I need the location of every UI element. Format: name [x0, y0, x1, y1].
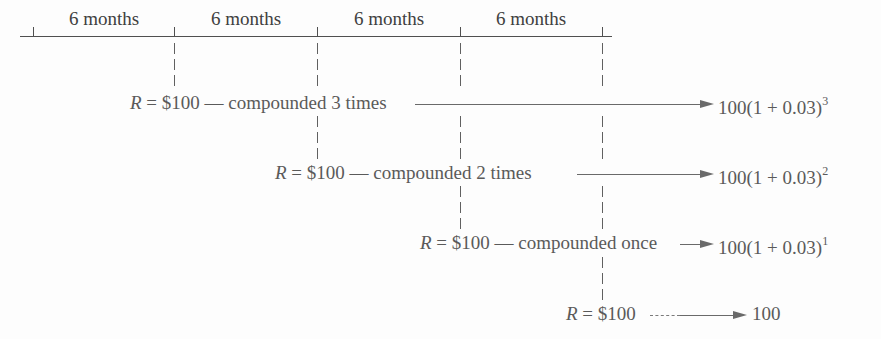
variable-r: R: [420, 232, 432, 253]
result-expression: 100(1 + 0.03): [718, 167, 822, 188]
payment-amount: $100: [598, 303, 636, 324]
row-2-result: 100(1 + 0.03)2: [718, 162, 828, 189]
guide-dash: [602, 257, 603, 268]
guide-dash: [317, 132, 318, 143]
row-1-result: 100(1 + 0.03)3: [718, 92, 828, 119]
arrow-line: [650, 315, 680, 316]
guide-dash: [317, 59, 318, 70]
guide-dash: [317, 148, 318, 159]
guide-dash: [602, 43, 603, 54]
guide-dash: [460, 43, 461, 54]
guide-dash: [602, 148, 603, 159]
guide-dash: [602, 132, 603, 143]
guide-dash: [460, 116, 461, 127]
variable-r: R: [275, 162, 287, 183]
guide-dash: [602, 186, 603, 197]
row-3-label: R = $100 — compounded once: [420, 232, 657, 254]
arrow-head-icon: [700, 240, 714, 248]
guide-dash: [317, 43, 318, 54]
period-label-4: 6 months: [496, 8, 566, 30]
arrow-line: [577, 174, 705, 175]
arrow-head-icon: [733, 311, 747, 319]
row-3-result: 100(1 + 0.03)1: [718, 232, 828, 259]
payment-amount: $100: [452, 232, 490, 253]
result-exponent: 1: [822, 234, 828, 248]
result-expression: 100(1 + 0.03): [718, 97, 822, 118]
result-exponent: 2: [822, 164, 828, 178]
guide-dash: [317, 116, 318, 127]
variable-r: R: [566, 303, 578, 324]
row-1-label: R = $100 — compounded 3 times: [130, 92, 387, 114]
guide-dash: [460, 148, 461, 159]
compounding-description: — compounded 3 times: [200, 92, 387, 113]
arrow-line: [415, 104, 705, 105]
guide-dash: [602, 289, 603, 300]
guide-dash: [174, 59, 175, 70]
guide-dash: [460, 75, 461, 86]
guide-dash: [174, 75, 175, 86]
guide-dash: [174, 43, 175, 54]
timeline-tick-3: [460, 27, 461, 37]
timeline-tick-4: [602, 27, 603, 37]
timeline-tick-2: [317, 27, 318, 37]
compounding-timeline-diagram: 6 months 6 months 6 months 6 months R = …: [0, 0, 881, 339]
result-expression: 100(1 + 0.03): [718, 237, 822, 258]
equals-sign: =: [287, 162, 307, 183]
equals-sign: =: [142, 92, 162, 113]
guide-dash: [460, 202, 461, 213]
guide-dash: [460, 218, 461, 229]
guide-dash: [602, 273, 603, 284]
variable-r: R: [130, 92, 142, 113]
compounding-description: — compounded once: [490, 232, 657, 253]
compounding-description: — compounded 2 times: [345, 162, 532, 183]
guide-dash: [460, 132, 461, 143]
period-label-1: 6 months: [69, 8, 139, 30]
guide-dash: [460, 186, 461, 197]
row-4-label: R = $100: [566, 303, 636, 325]
equals-sign: =: [578, 303, 598, 324]
result-expression: 100: [752, 303, 781, 324]
arrow-head-icon: [700, 100, 714, 108]
row-2-label: R = $100 — compounded 2 times: [275, 162, 532, 184]
timeline-axis: [20, 36, 612, 37]
guide-dash: [460, 59, 461, 70]
period-label-3: 6 months: [354, 8, 424, 30]
payment-amount: $100: [162, 92, 200, 113]
guide-dash: [602, 202, 603, 213]
guide-dash: [602, 75, 603, 86]
result-exponent: 3: [822, 94, 828, 108]
guide-dash: [317, 75, 318, 86]
payment-amount: $100: [307, 162, 345, 183]
row-4-result: 100: [752, 303, 781, 325]
timeline-tick-0: [33, 27, 34, 37]
timeline-tick-1: [174, 27, 175, 37]
equals-sign: =: [432, 232, 452, 253]
guide-dash: [602, 59, 603, 70]
guide-dash: [602, 218, 603, 229]
guide-dash: [602, 116, 603, 127]
arrow-line: [680, 315, 738, 316]
period-label-2: 6 months: [211, 8, 281, 30]
arrow-head-icon: [700, 170, 714, 178]
